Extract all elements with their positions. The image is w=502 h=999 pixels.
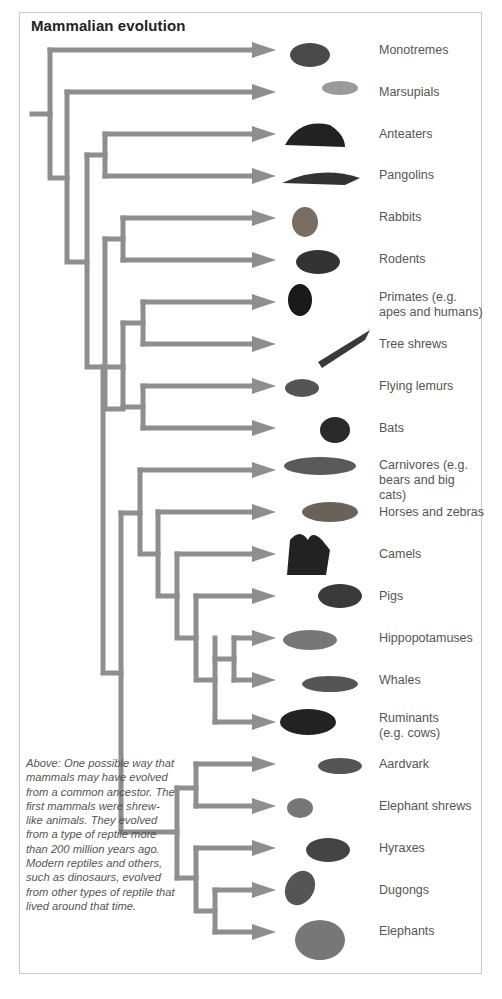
node-camel (177, 554, 196, 638)
label-ruminants: Ruminants (e.g. cows) (379, 711, 454, 741)
label-primates: Primates (e.g. apes and humans) (379, 290, 484, 320)
hippopotamus-icon (283, 630, 337, 650)
label-hyraxes: Hyraxes (379, 841, 484, 856)
node-theria (67, 92, 87, 262)
arrowheads (252, 42, 276, 940)
node-horse (158, 512, 177, 596)
label-anteaters: Anteaters (379, 127, 484, 142)
whale-icon (302, 676, 358, 692)
camel-icon (287, 534, 330, 575)
anteater-icon (285, 124, 345, 147)
horse-icon (302, 502, 358, 522)
label-rabbits: Rabbits (379, 210, 484, 225)
label-carnivores: Carnivores (e.g. bears and big cats) (379, 458, 484, 503)
label-monotremes: Monotremes (379, 43, 484, 58)
bat-icon (320, 417, 350, 443)
label-pangolins: Pangolins (379, 168, 484, 183)
flying-lemur-icon (285, 379, 319, 397)
hyrax-icon (306, 838, 350, 862)
elephant-icon (295, 920, 345, 960)
rodent-icon (296, 250, 340, 274)
animal-illustrations (279, 43, 370, 960)
buffalo-icon (280, 709, 336, 735)
rabbit-icon (292, 207, 318, 237)
label-bats: Bats (379, 421, 484, 436)
label-dugongs: Dugongs (379, 883, 484, 898)
label-pigs: Pigs (379, 589, 484, 604)
node-root (50, 50, 67, 178)
platypus-icon (290, 43, 330, 67)
label-whales: Whales (379, 673, 484, 688)
label-aardvark: Aardvark (379, 757, 484, 772)
label-elephants: Elephants (379, 924, 484, 939)
tree-shrew-icon (318, 330, 370, 368)
label-camels: Camels (379, 547, 484, 562)
label-hippopotamuses: Hippopotamuses (379, 631, 484, 646)
pangolin-icon (282, 173, 360, 185)
label-marsupials: Marsupials (379, 85, 484, 100)
node-pig (196, 596, 215, 680)
sugar-glider-icon (322, 81, 358, 95)
label-flying-lemurs: Flying lemurs (379, 379, 484, 394)
boar-icon (318, 584, 362, 608)
label-horses-zebras: Horses and zebras (379, 505, 484, 520)
dugong-icon (279, 865, 321, 910)
node-carnivore (140, 470, 158, 554)
elephant-shrew-icon (287, 798, 313, 818)
label-elephant-shrews: Elephant shrews (379, 799, 484, 814)
label-tree-shrews: Tree shrews (379, 337, 484, 352)
label-rodents: Rodents (379, 252, 484, 267)
node-hyrax (196, 848, 215, 911)
cheetah-icon (284, 457, 356, 475)
spine-laurasiatheria (103, 367, 121, 673)
chimpanzee-icon (288, 284, 312, 316)
aardvark-icon (318, 758, 362, 774)
figure-caption: Above: One possible way that mammals may… (26, 756, 176, 913)
